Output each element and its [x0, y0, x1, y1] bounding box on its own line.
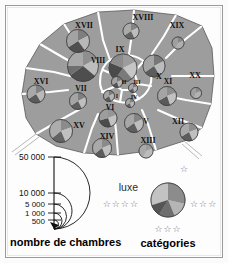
district-label-IV: IV [131, 94, 138, 100]
pie-XV [49, 119, 72, 142]
legend-panel: 50 000 10 000 5 000 1 000 500 nombre de … [6, 150, 222, 260]
district-label-VI: VI [106, 103, 114, 112]
legend-stars-top: ☆ [180, 164, 188, 174]
district-label-V: V [143, 117, 149, 126]
district-label-XI: XI [164, 77, 172, 86]
district-label-II: II [122, 79, 127, 85]
pie-XX [191, 88, 202, 99]
figure-root: XVII XVIII XIX IX VIII X XX XI XVI VII I… [0, 0, 228, 263]
pie-XVII [67, 30, 90, 53]
legend-svg: 50 000 10 000 5 000 1 000 500 nombre de … [6, 150, 222, 260]
size-label-500: 500 [32, 217, 46, 226]
category-legend-pie [151, 183, 185, 217]
district-label-XVIII: XVIII [133, 13, 154, 22]
paris-map-svg: XVII XVIII XIX IX VIII X XX XI XVI VII I… [6, 6, 222, 166]
district-label-XVI: XVI [34, 77, 49, 86]
size-label-5000: 5 000 [25, 200, 46, 209]
map-panel: XVII XVIII XIX IX VIII X XX XI XVI VII I… [6, 6, 222, 166]
legend-stars-left: ☆☆☆☆ [103, 199, 139, 209]
legend-label-luxe: luxe [119, 181, 138, 193]
district-label-XX: XX [189, 71, 201, 80]
district-label-VIII: VIII [91, 56, 105, 65]
district-label-XV: XV [73, 121, 85, 130]
pie-XIX [172, 37, 184, 49]
district-label-IX: IX [116, 45, 125, 54]
pie-V [125, 114, 144, 133]
district-label-XIX: XIX [170, 21, 185, 30]
district-label-XIII: XIII [140, 136, 155, 145]
category-legend-caption: catégories [140, 237, 195, 249]
pie-XVI [27, 85, 45, 103]
district-label-VII: VII [75, 84, 86, 93]
district-label-XII: XII [172, 117, 184, 126]
legend-stars-right: ☆☆☆ [190, 199, 217, 209]
pie-VII [70, 93, 87, 110]
size-arc-10000 [54, 193, 72, 229]
size-label-50000: 50 000 [19, 152, 45, 162]
district-label-III: III [133, 79, 141, 85]
pie-XVIII [123, 23, 139, 39]
pie-I [104, 90, 115, 101]
district-label-XIV: XIV [100, 132, 115, 141]
pie-XI [157, 87, 176, 106]
legend-stars-bottom: ☆☆☆ [154, 224, 181, 234]
district-label-XVII: XVII [75, 21, 93, 30]
size-legend-caption: nombre de chambres [10, 236, 121, 248]
district-label-X: X [156, 72, 162, 81]
size-label-10000: 10 000 [19, 188, 45, 198]
